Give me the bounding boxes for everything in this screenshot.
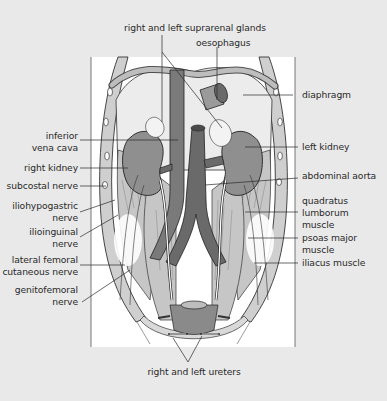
label-lateral-femoral-cutaneous-nerve: lateral femoral cutaneous nerve — [2, 254, 78, 278]
label-right-kidney: right kidney — [2, 162, 78, 174]
label-iliacus-muscle: iliacus muscle — [302, 257, 365, 269]
label-inferior-vena-cava: inferior vena cava — [2, 130, 78, 154]
label-psoas-major-muscle: psoas major muscle — [302, 232, 357, 256]
label-quadratus-lumborum-muscle: quadratus lumborum muscle — [302, 195, 349, 231]
label-genitofemoral-nerve: genitofemoral nerve — [2, 284, 78, 308]
anatomy-figure: right and left suprarenal glands oesopha… — [0, 0, 387, 401]
label-left-kidney: left kidney — [302, 141, 349, 153]
label-oesophagus: oesophagus — [196, 37, 250, 49]
label-ilioinguinal-nerve: ilioinguinal nerve — [2, 226, 78, 250]
label-abdominal-aorta: abdominal aorta — [302, 170, 376, 182]
label-suprarenal-glands: right and left suprarenal glands — [95, 22, 295, 34]
label-iliohypogastric-nerve: iliohypogastric nerve — [2, 200, 78, 224]
label-diaphragm: diaphragm — [302, 89, 351, 101]
label-subcostal-nerve: subcostal nerve — [2, 180, 78, 192]
label-ureters: right and left ureters — [94, 366, 294, 378]
